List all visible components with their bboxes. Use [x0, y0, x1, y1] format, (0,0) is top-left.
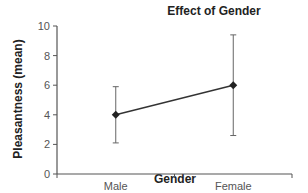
- x-tick-label: Male: [104, 180, 128, 192]
- series-line: [116, 85, 234, 115]
- y-tick-label: 8: [44, 50, 50, 62]
- data-point-diamond: [229, 81, 237, 89]
- y-tick-label: 2: [44, 138, 50, 150]
- x-tick-label: Female: [215, 180, 252, 192]
- plot-area: 0246810MaleFemale: [0, 0, 308, 193]
- y-tick-label: 0: [44, 168, 50, 180]
- y-tick-label: 4: [44, 109, 50, 121]
- y-tick-label: 6: [44, 79, 50, 91]
- y-tick-label: 10: [38, 20, 50, 32]
- data-point-diamond: [112, 111, 120, 119]
